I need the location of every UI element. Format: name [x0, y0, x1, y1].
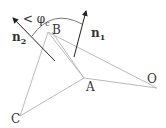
- point-a-label: A: [86, 81, 95, 93]
- diagram: < φc n2 n1 B A O C: [0, 0, 166, 128]
- n1-label: n1: [91, 27, 105, 41]
- edge-c-a: [20, 78, 84, 116]
- n2-label: n2: [12, 31, 26, 45]
- point-c-label: C: [11, 113, 20, 125]
- angle-label: < φc: [23, 13, 50, 28]
- point-b-label: B: [52, 24, 61, 36]
- point-o-label: O: [147, 73, 157, 85]
